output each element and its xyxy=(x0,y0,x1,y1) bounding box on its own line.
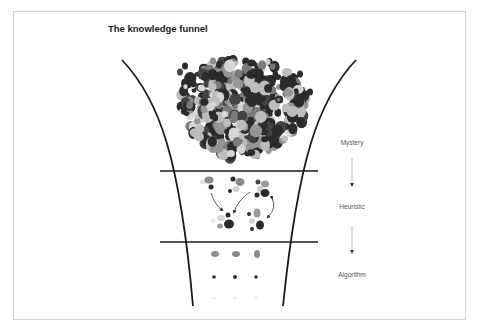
mystery-cluster xyxy=(176,55,313,164)
heuristic-arrow-3 xyxy=(268,198,274,217)
stage-label-heuristic: Heuristic xyxy=(339,203,364,210)
knowledge-funnel-diagram xyxy=(0,0,477,332)
stage-label-algorithm: Algorithm xyxy=(338,271,365,278)
heuristic-arrow-1 xyxy=(211,193,222,210)
heuristic-arrow-2 xyxy=(234,192,250,212)
stage-label-mystery: Mystery xyxy=(341,139,364,146)
heuristic-groups xyxy=(200,177,274,232)
algorithm-rows xyxy=(211,250,260,300)
